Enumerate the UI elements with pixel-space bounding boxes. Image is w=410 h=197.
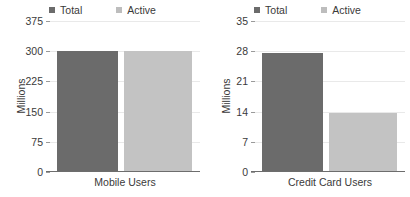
chart-panel-mobile-users: Total Active Millions 375 300 225 150 <box>0 0 205 197</box>
chart-panel-credit-card-users: Total Active Millions 35 28 21 14 <box>205 0 410 197</box>
legend-entry-active[interactable]: Active <box>116 3 156 17</box>
y-tick-label-75: 75 <box>31 136 43 148</box>
tick-21 <box>251 81 255 82</box>
y-tick-label-0: 0 <box>37 166 43 178</box>
legend-swatch-total-icon <box>49 7 55 13</box>
legend-swatch-total-icon <box>254 7 260 13</box>
bar-total[interactable] <box>262 53 323 172</box>
tick-300 <box>46 51 50 52</box>
y-tick-label-375: 375 <box>25 15 43 27</box>
tick-0 <box>251 172 255 173</box>
legend-swatch-active-icon <box>116 7 122 13</box>
tick-0 <box>46 172 50 173</box>
y-tick-label-300: 300 <box>25 45 43 57</box>
bar-active[interactable] <box>329 113 397 172</box>
legend-label-total: Total <box>265 4 287 16</box>
bar-total[interactable] <box>57 51 118 172</box>
legend-entry-active[interactable]: Active <box>321 3 361 17</box>
tick-7 <box>251 142 255 143</box>
y-tick-label-0: 0 <box>242 166 248 178</box>
x-axis-title: Credit Card Users <box>255 176 405 188</box>
legend-entry-total[interactable]: Total <box>254 3 287 17</box>
gridline-375 <box>50 21 200 22</box>
plot-area-credit-card-users: 35 28 21 14 7 0 <box>255 21 405 172</box>
legend-label-active: Active <box>332 4 361 16</box>
gridline-35 <box>255 21 405 22</box>
y-tick-label-225: 225 <box>25 75 43 87</box>
tick-150 <box>46 112 50 113</box>
y-tick-label-150: 150 <box>25 106 43 118</box>
x-axis-line <box>46 171 200 172</box>
legend-swatch-active-icon <box>321 7 327 13</box>
y-tick-label-35: 35 <box>236 15 248 27</box>
gridline-28 <box>255 51 405 52</box>
tick-35 <box>251 21 255 22</box>
dual-bar-chart-figure: Total Active Millions 375 300 225 150 <box>0 0 410 197</box>
bar-active[interactable] <box>124 51 192 172</box>
legend-entry-total[interactable]: Total <box>49 3 82 17</box>
y-tick-label-28: 28 <box>236 45 248 57</box>
x-axis-line <box>251 171 405 172</box>
y-tick-label-7: 7 <box>242 136 248 148</box>
tick-75 <box>46 142 50 143</box>
y-axis-title: Millions <box>220 78 232 113</box>
plot-area-mobile-users: 375 300 225 150 75 0 <box>50 21 200 172</box>
legend-label-active: Active <box>127 4 156 16</box>
legend-label-total: Total <box>60 4 82 16</box>
x-axis-title: Mobile Users <box>50 176 200 188</box>
tick-28 <box>251 51 255 52</box>
tick-225 <box>46 81 50 82</box>
y-tick-label-14: 14 <box>236 106 248 118</box>
y-tick-label-21: 21 <box>236 75 248 87</box>
tick-375 <box>46 21 50 22</box>
tick-14 <box>251 112 255 113</box>
